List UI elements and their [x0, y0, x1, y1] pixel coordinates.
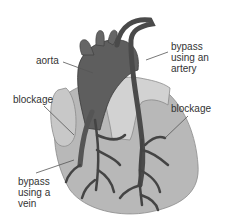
bypass-artery-label: bypass using an artery [171, 41, 209, 74]
bypass-diagram: aorta bypass using an artery blockage bl… [0, 0, 226, 223]
blockage-left-label: blockage [13, 94, 53, 105]
right-atrium [51, 88, 76, 146]
bypass-vein-label: bypass using a vein [18, 176, 50, 209]
aorta-label: aorta [36, 55, 59, 66]
aortic-branch-2 [96, 31, 104, 46]
bypass-artery-leader [146, 52, 168, 60]
blockage-right-label: blockage [171, 103, 211, 114]
